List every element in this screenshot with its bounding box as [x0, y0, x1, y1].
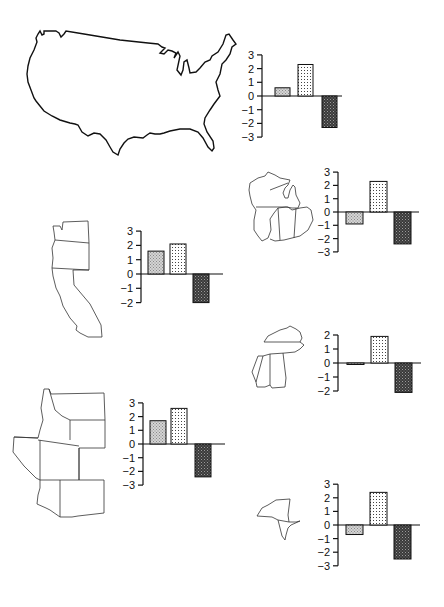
bar-chart-4: 210−1−2 — [317, 329, 421, 397]
bar-3 — [322, 96, 337, 128]
bar-1 — [346, 212, 363, 224]
y-tick-label: 1 — [129, 424, 135, 436]
bar-3 — [193, 274, 209, 303]
y-tick-label: 2 — [248, 63, 254, 75]
figure-canvas: 3210−1−2−33210−1−2−33210−1−2210−1−23210−… — [0, 0, 444, 607]
y-tick-label: 2 — [127, 239, 133, 251]
y-tick-label: 2 — [129, 411, 135, 423]
bar-2 — [370, 492, 387, 525]
y-tick-label: 1 — [324, 193, 330, 205]
y-tick-label: 2 — [324, 329, 330, 341]
y-tick-label: −3 — [241, 131, 254, 143]
y-tick-label: 0 — [129, 438, 135, 450]
map-united-states — [27, 31, 236, 155]
y-tick-label: −3 — [317, 560, 330, 572]
bar-chart-2: 3210−1−2−3 — [317, 166, 419, 258]
bar-2 — [170, 244, 186, 274]
y-tick-label: −2 — [241, 117, 254, 129]
y-tick-label: 3 — [127, 225, 133, 237]
y-tick-label: 3 — [248, 49, 254, 61]
bar-chart-5: 3210−1−2−3 — [122, 397, 225, 491]
bar-2 — [298, 64, 313, 96]
map-new-york — [257, 499, 300, 540]
y-tick-label: −2 — [317, 233, 330, 245]
y-tick-label: −1 — [120, 282, 133, 294]
y-tick-label: −3 — [122, 479, 135, 491]
bar-1 — [346, 525, 363, 535]
y-tick-label: 0 — [248, 90, 254, 102]
map-pacific-coast — [52, 221, 102, 337]
y-tick-label: 2 — [324, 179, 330, 191]
y-tick-label: −3 — [317, 246, 330, 258]
y-tick-label: 1 — [324, 505, 330, 517]
y-tick-label: 0 — [324, 357, 330, 369]
y-tick-label: −1 — [317, 533, 330, 545]
y-tick-label: −2 — [317, 546, 330, 558]
bar-2 — [371, 336, 388, 363]
y-tick-label: 3 — [324, 166, 330, 178]
bar-2 — [370, 181, 387, 212]
y-tick-label: 1 — [248, 76, 254, 88]
y-tick-label: 2 — [324, 492, 330, 504]
bar-1 — [150, 421, 166, 444]
bar-chart-6: 3210−1−2−3 — [317, 478, 420, 572]
y-tick-label: −2 — [317, 385, 330, 397]
y-tick-label: −1 — [317, 219, 330, 231]
bar-chart-1: 3210−1−2−3 — [241, 49, 342, 143]
map-southeast — [252, 326, 304, 388]
y-tick-label: 0 — [127, 268, 133, 280]
bar-1 — [148, 251, 164, 274]
y-tick-label: 0 — [324, 519, 330, 531]
bar-1 — [347, 363, 364, 365]
bar-2 — [171, 408, 187, 444]
y-tick-label: 3 — [324, 478, 330, 490]
y-tick-label: 1 — [324, 343, 330, 355]
bar-3 — [195, 444, 211, 477]
y-tick-label: −1 — [241, 104, 254, 116]
bar-1 — [275, 88, 290, 96]
bar-3 — [395, 363, 412, 392]
bar-chart-3: 3210−1−2 — [120, 225, 223, 309]
y-tick-label: −1 — [317, 371, 330, 383]
bar-3 — [394, 525, 411, 559]
y-tick-label: 3 — [129, 397, 135, 409]
y-tick-label: −2 — [122, 465, 135, 477]
map-mountain-west — [13, 389, 105, 517]
y-tick-label: 0 — [324, 206, 330, 218]
map-great-lakes — [249, 172, 313, 241]
bar-3 — [394, 212, 411, 244]
y-tick-label: 1 — [127, 254, 133, 266]
y-tick-label: −2 — [120, 297, 133, 309]
y-tick-label: −1 — [122, 452, 135, 464]
